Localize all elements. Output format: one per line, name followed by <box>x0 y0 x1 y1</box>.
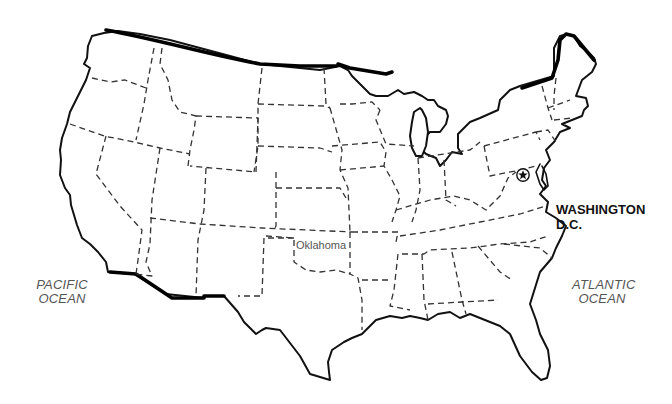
atlantic-ocean-label: ATLANTIC OCEAN <box>572 278 632 305</box>
capital-line1: WASHINGTON <box>556 203 645 218</box>
pacific-ocean-line1: PACIFIC <box>32 278 92 292</box>
pacific-ocean-label: PACIFIC OCEAN <box>32 278 92 305</box>
atlantic-ocean-line2: OCEAN <box>572 292 632 306</box>
atlantic-ocean-line1: ATLANTIC <box>572 278 632 292</box>
oklahoma-label: Oklahoma <box>296 240 346 252</box>
lake-michigan <box>410 108 428 156</box>
us-landmass-outline <box>60 31 596 380</box>
pacific-ocean-line2: OCEAN <box>32 292 92 306</box>
star-in-circle-icon <box>516 168 530 182</box>
capital-label: WASHINGTON D.C. <box>556 203 645 233</box>
capital-line2: D.C. <box>556 218 645 233</box>
